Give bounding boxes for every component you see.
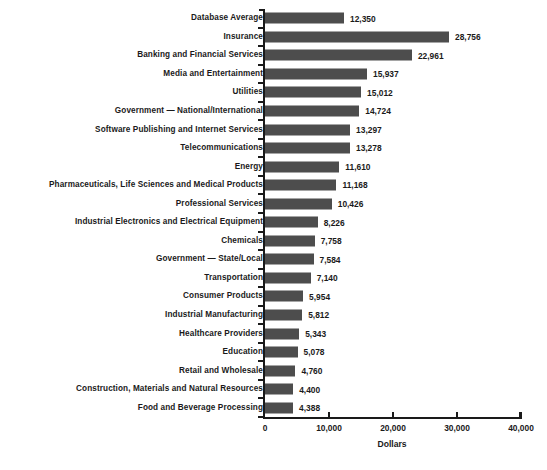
bar-with-value: 5,954 <box>265 291 330 302</box>
bar-value-label: 15,937 <box>373 70 399 78</box>
category-label: Retail and Wholesale <box>179 367 263 375</box>
bar-row: Utilities15,012 <box>0 83 547 102</box>
category-label: Industrial Manufacturing <box>165 311 263 319</box>
bar-row: Retail and Wholesale4,760 <box>0 361 547 380</box>
category-label: Media and Entertainment <box>163 70 263 78</box>
category-label: Software Publishing and Internet Service… <box>95 125 263 133</box>
x-axis-tick <box>328 412 330 419</box>
bar-value-label: 4,400 <box>299 385 320 393</box>
bar <box>265 310 302 321</box>
bar-row: Construction, Materials and Natural Reso… <box>0 380 547 399</box>
bar-row: Food and Beverage Processing4,388 <box>0 398 547 417</box>
bar-value-label: 4,760 <box>301 366 322 374</box>
category-label: Government — National/International <box>115 107 263 115</box>
bar-with-value: 14,724 <box>265 106 391 117</box>
category-label: Government — State/Local <box>156 255 263 263</box>
category-label: Healthcare Providers <box>179 329 263 337</box>
bar-row: Software Publishing and Internet Service… <box>0 120 547 139</box>
bar-value-label: 7,584 <box>320 255 341 263</box>
category-label: Transportation <box>204 274 263 282</box>
bar <box>265 254 314 265</box>
bar-value-label: 22,961 <box>418 51 444 59</box>
bar-value-label: 5,078 <box>304 348 325 356</box>
x-axis-tick-label: 40,000 <box>508 424 534 432</box>
bar-row: Professional Services10,426 <box>0 194 547 213</box>
bar-value-label: 10,426 <box>338 200 364 208</box>
bar-row: Insurance28,756 <box>0 28 547 47</box>
bar-with-value: 5,343 <box>265 328 326 339</box>
bar <box>265 161 339 172</box>
bar <box>265 143 350 154</box>
bar <box>265 31 449 42</box>
bar-value-label: 11,168 <box>342 181 367 189</box>
bar-with-value: 5,078 <box>265 347 324 358</box>
bar-with-value: 8,226 <box>265 217 345 228</box>
category-label: Construction, Materials and Natural Reso… <box>76 385 263 393</box>
bar-with-value: 13,297 <box>265 124 382 135</box>
x-axis-tick-label: 20,000 <box>380 424 406 432</box>
bar-with-value: 11,168 <box>265 180 368 191</box>
bar-value-label: 7,140 <box>317 274 338 282</box>
bar <box>265 365 295 376</box>
x-axis-tick-label: 0 <box>263 424 268 432</box>
bar-row: Transportation7,140 <box>0 269 547 288</box>
category-label: Education <box>223 348 263 356</box>
bar-value-label: 5,954 <box>309 292 330 300</box>
category-label: Database Average <box>191 14 263 22</box>
bar-value-label: 5,343 <box>305 329 326 337</box>
bar-with-value: 28,756 <box>265 31 481 42</box>
bar <box>265 106 359 117</box>
x-axis-tick <box>392 412 394 419</box>
bar-value-label: 15,012 <box>367 88 393 96</box>
category-label: Utilities <box>233 88 263 96</box>
bar-with-value: 7,140 <box>265 272 338 283</box>
bar-with-value: 12,350 <box>265 13 376 24</box>
bar-with-value: 7,758 <box>265 235 342 246</box>
bar-row: Media and Entertainment15,937 <box>0 65 547 84</box>
bar-row: Telecommunications13,278 <box>0 139 547 158</box>
x-axis-tick <box>520 412 522 419</box>
bar-value-label: 7,758 <box>321 237 342 245</box>
bar <box>265 198 332 209</box>
bar-with-value: 13,278 <box>265 143 382 154</box>
bar <box>265 347 298 358</box>
bar <box>265 68 367 79</box>
bar-row: Industrial Manufacturing5,812 <box>0 306 547 325</box>
bar <box>265 328 299 339</box>
bar <box>265 402 293 413</box>
bar <box>265 291 303 302</box>
bar-with-value: 15,937 <box>265 68 399 79</box>
bar-with-value: 4,400 <box>265 384 320 395</box>
category-label: Insurance <box>223 33 263 41</box>
bar-row: Government — State/Local7,584 <box>0 250 547 269</box>
bar-value-label: 12,350 <box>350 14 376 22</box>
bar <box>265 180 336 191</box>
bar-row: Government — National/International14,72… <box>0 102 547 121</box>
category-label: Banking and Financial Services <box>137 51 263 59</box>
bar-with-value: 7,584 <box>265 254 341 265</box>
category-label: Food and Beverage Processing <box>138 404 263 412</box>
bar-value-label: 14,724 <box>365 107 391 115</box>
bar-row: Consumer Products5,954 <box>0 287 547 306</box>
x-axis-tick-label: 30,000 <box>444 424 470 432</box>
bar <box>265 384 293 395</box>
bar-row: Education5,078 <box>0 343 547 362</box>
bar <box>265 217 318 228</box>
bar-with-value: 5,812 <box>265 310 329 321</box>
bar-chart: Database Average12,350Insurance28,756Ban… <box>0 0 547 470</box>
category-label: Consumer Products <box>183 292 263 300</box>
bar-value-label: 28,756 <box>455 33 481 41</box>
category-label: Pharmaceuticals, Life Sciences and Medic… <box>49 181 263 189</box>
bar-value-label: 8,226 <box>324 218 345 226</box>
category-label: Telecommunications <box>180 144 263 152</box>
bar-row: Healthcare Providers5,343 <box>0 324 547 343</box>
bar-row: Banking and Financial Services22,961 <box>0 46 547 65</box>
bar-with-value: 4,388 <box>265 402 320 413</box>
bar-with-value: 22,961 <box>265 50 444 61</box>
bar-rows: Database Average12,350Insurance28,756Ban… <box>0 9 547 417</box>
bar <box>265 235 315 246</box>
bar-value-label: 4,388 <box>299 404 320 412</box>
bar-with-value: 10,426 <box>265 198 363 209</box>
category-label: Energy <box>235 163 263 171</box>
bar-row: Database Average12,350 <box>0 9 547 28</box>
